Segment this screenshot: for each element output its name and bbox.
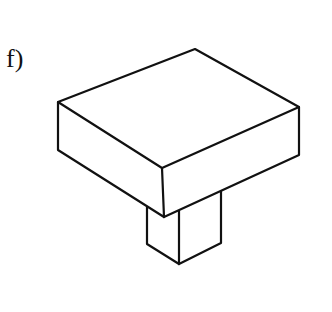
slab-right-face (164, 107, 299, 217)
slab-top-face (58, 49, 299, 168)
figure-canvas: f) (0, 0, 332, 312)
post-right-face (179, 191, 221, 264)
isometric-block-drawing (0, 0, 332, 312)
